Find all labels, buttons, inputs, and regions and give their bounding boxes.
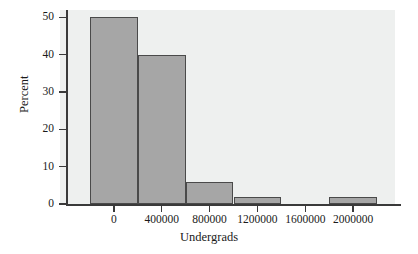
x-tick-label: 1600000 [285,214,325,226]
y-tick-label: 50 [14,11,54,23]
y-tick-label: 0 [14,198,54,210]
histogram-bar [234,197,282,204]
x-tick-label: 800000 [192,214,227,226]
y-tick-mark [59,54,66,55]
y-tick-label: 40 [14,49,54,61]
y-axis-line [66,10,68,205]
x-tick-mark [209,205,210,212]
histogram-figure: 50403020100 0400000800000120000016000002… [0,0,418,254]
y-tick-label: 10 [14,161,54,173]
x-tick-label: 400000 [144,214,179,226]
y-axis-title: Percent [18,76,31,113]
x-tick-mark [161,205,162,212]
histogram-bar [186,182,234,204]
x-tick-mark [305,205,306,212]
histogram-bar [90,17,138,204]
y-tick-mark [59,17,66,18]
x-axis-title: Undergrads [0,231,418,244]
x-tick-mark [257,205,258,212]
x-axis-line [66,204,401,206]
y-tick-mark [59,166,66,167]
y-tick-label: 20 [14,123,54,135]
x-tick-label: 1200000 [237,214,277,226]
x-tick-mark [113,205,114,212]
x-tick-label: 0 [111,214,117,226]
histogram-bar [329,197,377,204]
histogram-bar [138,55,186,204]
y-tick-mark [59,91,66,92]
x-tick-mark [352,205,353,212]
y-tick-mark [59,129,66,130]
y-tick-mark [59,203,66,204]
x-tick-label: 2000000 [333,214,373,226]
